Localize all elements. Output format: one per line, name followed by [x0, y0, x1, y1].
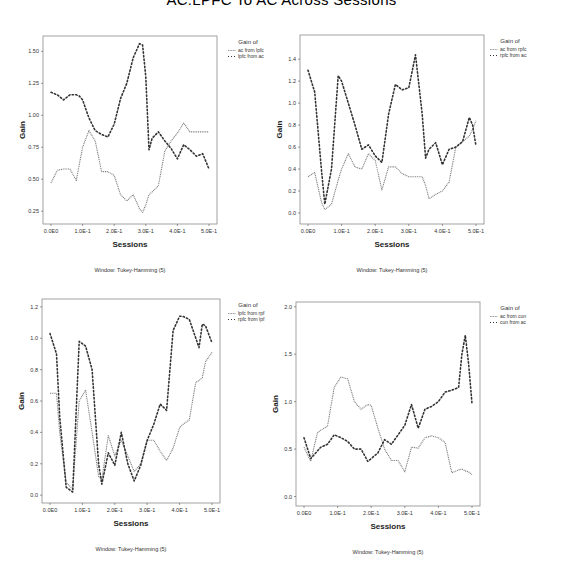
x-tick-label: 0.0E0 — [43, 507, 57, 513]
x-tick-label: 2.0E-1 — [367, 228, 383, 234]
y-tick-label: 0.0 — [284, 494, 292, 500]
x-tick-label: 1.0E-1 — [74, 507, 90, 513]
y-tick-label: 0.0 — [288, 210, 296, 216]
y-tick-label: 1.25 — [28, 80, 39, 86]
y-axis-title: Gain — [271, 395, 280, 413]
window-note: Window: Tukey-Hamming (5) — [96, 546, 167, 552]
x-tick-label: 1.0E-1 — [333, 228, 349, 234]
y-tick-label: 0.50 — [28, 176, 39, 182]
y-tick-label: 0.6 — [288, 144, 296, 150]
window-note: Window: Tukey-Hamming (5) — [357, 267, 428, 273]
legend-label: rpfc from ac — [500, 52, 527, 58]
x-tick-label: 2.0E-1 — [107, 507, 123, 513]
y-tick-label: 1.5 — [284, 351, 292, 357]
y-tick-label: 0.6 — [30, 398, 38, 404]
window-note: Window: Tukey-Hamming (5) — [353, 549, 424, 555]
x-tick-label: 4.0E-1 — [434, 228, 450, 234]
y-tick-label: 1.00 — [28, 112, 39, 118]
page-title: AC:LPFC To AC Across Sessions — [0, 0, 563, 8]
y-tick-label: 0.5 — [284, 446, 292, 452]
y-tick-label: 0.2 — [30, 461, 38, 467]
x-tick-label: 3.0E-1 — [138, 228, 154, 234]
x-tick-label: 5.0E-1 — [468, 228, 484, 234]
x-tick-label: 0.0E0 — [301, 228, 315, 234]
chart-ac-cun: 0.00.51.01.52.00.0E01.0E-12.0E-13.0E-14.… — [280, 290, 563, 560]
x-tick-label: 1.0E-1 — [74, 228, 90, 234]
x-tick-label: 3.0E-1 — [401, 228, 417, 234]
x-tick-label: 4.0E-1 — [169, 228, 185, 234]
x-axis-title: Sessions — [112, 240, 148, 249]
y-tick-label: 0.0 — [30, 492, 38, 498]
y-tick-label: 1.0 — [288, 100, 296, 106]
legend-title: Gain of — [500, 305, 520, 311]
legend-label: cun from ac — [500, 319, 527, 325]
x-axis-title: Sessions — [374, 240, 410, 249]
chart-ac-rpfc: 0.00.20.40.60.81.01.21.40.0E01.0E-12.0E-… — [280, 30, 563, 285]
legend-title: Gain of — [238, 302, 258, 308]
chart-ac-lpfc: 0.250.500.751.001.251.500.0E01.0E-12.0E-… — [0, 30, 280, 285]
y-axis-title: Gain — [18, 121, 27, 139]
chart-lpfc-rpfc: 0.00.20.40.60.81.01.20.0E01.0E-12.0E-13.… — [0, 290, 280, 560]
y-tick-label: 0.2 — [288, 188, 296, 194]
x-tick-label: 4.0E-1 — [430, 510, 446, 516]
y-axis-title: Gain — [275, 120, 284, 138]
legend-title: Gain of — [238, 39, 258, 45]
legend-title: Gain of — [500, 38, 520, 44]
x-tick-label: 0.0E0 — [44, 228, 58, 234]
y-tick-label: 1.0 — [30, 335, 38, 341]
x-tick-label: 0.0E0 — [297, 510, 311, 516]
x-axis-title: Sessions — [370, 522, 406, 531]
y-tick-label: 1.0 — [284, 399, 292, 405]
y-tick-label: 1.2 — [288, 78, 296, 84]
x-tick-label: 5.0E-1 — [464, 510, 480, 516]
y-tick-label: 0.4 — [288, 166, 296, 172]
plot-area — [300, 35, 484, 224]
plot-area — [43, 36, 217, 224]
y-tick-label: 0.25 — [28, 208, 39, 214]
x-tick-label: 2.0E-1 — [106, 228, 122, 234]
x-tick-label: 2.0E-1 — [363, 510, 379, 516]
x-tick-label: 5.0E-1 — [201, 228, 217, 234]
y-axis-title: Gain — [17, 392, 26, 410]
x-tick-label: 3.0E-1 — [397, 510, 413, 516]
y-tick-label: 0.4 — [30, 429, 38, 435]
window-note: Window: Tukey-Hamming (5) — [95, 267, 166, 273]
y-tick-label: 0.8 — [288, 122, 296, 128]
y-tick-label: 2.0 — [284, 304, 292, 310]
legend-label: lpfc from ac — [238, 53, 264, 59]
y-tick-label: 1.2 — [30, 304, 38, 310]
y-tick-label: 1.4 — [288, 56, 296, 62]
legend-label: rpfc from lpf — [238, 316, 265, 322]
y-tick-label: 1.50 — [28, 48, 39, 54]
y-tick-label: 0.8 — [30, 367, 38, 373]
plot-area — [296, 302, 480, 506]
x-tick-label: 5.0E-1 — [204, 507, 220, 513]
x-tick-label: 4.0E-1 — [171, 507, 187, 513]
x-axis-title: Sessions — [113, 519, 149, 528]
x-tick-label: 3.0E-1 — [139, 507, 155, 513]
x-tick-label: 1.0E-1 — [329, 510, 345, 516]
y-tick-label: 0.75 — [28, 144, 39, 150]
